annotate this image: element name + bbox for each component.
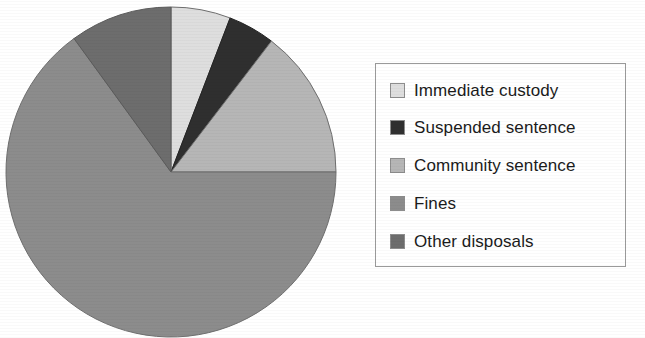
- legend-label-other-disposals: Other disposals: [414, 233, 534, 250]
- legend-swatch-fines: [390, 196, 405, 211]
- legend-swatch-community-sentence: [390, 158, 405, 173]
- legend-item-suspended-sentence: Suspended sentence: [390, 113, 615, 143]
- pie-chart-figure: Immediate custody Suspended sentence Com…: [0, 0, 645, 338]
- legend-label-fines: Fines: [414, 195, 456, 212]
- legend-label-immediate-custody: Immediate custody: [414, 82, 558, 99]
- legend-swatch-other-disposals: [390, 234, 405, 249]
- legend-item-list: Immediate custody Suspended sentence Com…: [390, 75, 615, 256]
- pie-chart-svg: [4, 5, 338, 338]
- legend-swatch-immediate-custody: [390, 83, 405, 98]
- legend-label-suspended-sentence: Suspended sentence: [414, 119, 576, 136]
- legend-swatch-suspended-sentence: [390, 120, 405, 135]
- legend-item-community-sentence: Community sentence: [390, 151, 615, 181]
- legend-label-community-sentence: Community sentence: [414, 157, 575, 174]
- legend-item-fines: Fines: [390, 188, 615, 218]
- legend-item-immediate-custody: Immediate custody: [390, 75, 615, 105]
- legend-item-other-disposals: Other disposals: [390, 226, 615, 256]
- pie-chart-plot-area: [4, 5, 338, 338]
- pie-slice-group: [6, 7, 336, 337]
- chart-legend: Immediate custody Suspended sentence Com…: [375, 63, 626, 267]
